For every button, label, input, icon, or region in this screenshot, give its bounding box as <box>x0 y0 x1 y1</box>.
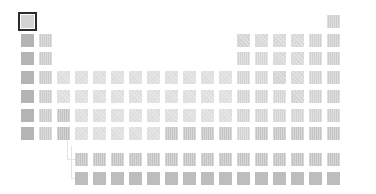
element-cell-ca[interactable]: Ca <box>39 71 52 84</box>
element-cell-cr[interactable]: Cr <box>111 71 124 84</box>
element-cell-ds[interactable]: Ds <box>183 127 196 140</box>
element-cell-md[interactable]: Md <box>291 172 304 185</box>
element-cell-c[interactable]: C <box>255 34 268 47</box>
element-cell-mn[interactable]: Mn <box>129 71 142 84</box>
element-cell-cu[interactable]: Cu <box>201 71 214 84</box>
element-cell-cs[interactable]: Cs <box>21 109 34 122</box>
element-cell-am[interactable]: Am <box>183 172 196 185</box>
element-cell-co[interactable]: Co <box>165 71 178 84</box>
element-cell-h[interactable]: H <box>21 15 34 28</box>
element-cell-se[interactable]: Se <box>291 71 304 84</box>
element-cell-y[interactable]: Y <box>57 90 70 103</box>
element-cell-fm[interactable]: Fm <box>273 172 286 185</box>
element-cell-ra[interactable]: Ra <box>39 127 52 140</box>
element-cell-la-lu[interactable]: La-Lu <box>57 109 70 122</box>
element-cell-rg[interactable]: Rg <box>201 127 214 140</box>
element-cell-mc[interactable]: Mc <box>273 127 286 140</box>
element-cell-he[interactable]: He <box>327 15 340 28</box>
element-cell-xe[interactable]: Xe <box>327 90 340 103</box>
element-cell-yb[interactable]: Yb <box>309 153 322 166</box>
element-cell-ho[interactable]: Ho <box>255 153 268 166</box>
element-cell-mg[interactable]: Mg <box>39 52 52 65</box>
element-cell-fl[interactable]: Fl <box>255 127 268 140</box>
element-cell-ru[interactable]: Ru <box>147 90 160 103</box>
element-cell-pu[interactable]: Pu <box>165 172 178 185</box>
element-cell-lr[interactable]: Lr <box>327 172 340 185</box>
element-cell-ac[interactable]: Ac <box>75 172 88 185</box>
element-cell-ts[interactable]: Ts <box>309 127 322 140</box>
element-cell-np[interactable]: Np <box>147 172 160 185</box>
element-cell-tc[interactable]: Tc <box>129 90 142 103</box>
element-cell-nb[interactable]: Nb <box>93 90 106 103</box>
element-cell-ta[interactable]: Ta <box>93 109 106 122</box>
element-cell-bh[interactable]: Bh <box>129 127 142 140</box>
element-cell-k[interactable]: K <box>21 71 34 84</box>
element-cell-pm[interactable]: Pm <box>147 153 160 166</box>
element-cell-rh[interactable]: Rh <box>165 90 178 103</box>
element-cell-s[interactable]: S <box>291 52 304 65</box>
element-cell-rb[interactable]: Rb <box>21 90 34 103</box>
element-cell-al[interactable]: Al <box>237 52 250 65</box>
element-cell-rf[interactable]: Rf <box>75 127 88 140</box>
element-cell-tm[interactable]: Tm <box>291 153 304 166</box>
element-cell-dy[interactable]: Dy <box>237 153 250 166</box>
element-cell-ir[interactable]: Ir <box>165 109 178 122</box>
element-cell-ge[interactable]: Ge <box>255 71 268 84</box>
element-cell-pa[interactable]: Pa <box>111 172 124 185</box>
element-cell-hf[interactable]: Hf <box>75 109 88 122</box>
element-cell-ag[interactable]: Ag <box>201 90 214 103</box>
element-cell-nd[interactable]: Nd <box>129 153 142 166</box>
element-cell-o[interactable]: O <box>291 34 304 47</box>
element-cell-hg[interactable]: Hg <box>219 109 232 122</box>
element-cell-lv[interactable]: Lv <box>291 127 304 140</box>
element-cell-ni[interactable]: Ni <box>183 71 196 84</box>
element-cell-sr[interactable]: Sr <box>39 90 52 103</box>
element-cell-bi[interactable]: Bi <box>273 109 286 122</box>
element-cell-zr[interactable]: Zr <box>75 90 88 103</box>
element-cell-hs[interactable]: Hs <box>147 127 160 140</box>
element-cell-b[interactable]: B <box>237 34 250 47</box>
element-cell-lu[interactable]: Lu <box>327 153 340 166</box>
element-cell-li[interactable]: Li <box>21 34 34 47</box>
element-cell-te[interactable]: Te <box>291 90 304 103</box>
element-cell-ne[interactable]: Ne <box>327 34 340 47</box>
element-cell-pd[interactable]: Pd <box>183 90 196 103</box>
element-cell-tl[interactable]: Tl <box>237 109 250 122</box>
element-cell-ar[interactable]: Ar <box>327 52 340 65</box>
element-cell-as[interactable]: As <box>273 71 286 84</box>
element-cell-at[interactable]: At <box>309 109 322 122</box>
element-cell-mt[interactable]: Mt <box>165 127 178 140</box>
element-cell-mo[interactable]: Mo <box>111 90 124 103</box>
element-cell-og[interactable]: Og <box>327 127 340 140</box>
element-cell-cn[interactable]: Cn <box>219 127 232 140</box>
element-cell-eu[interactable]: Eu <box>183 153 196 166</box>
element-cell-gd[interactable]: Gd <box>201 153 214 166</box>
element-cell-cd[interactable]: Cd <box>219 90 232 103</box>
element-cell-os[interactable]: Os <box>147 109 160 122</box>
element-cell-sb[interactable]: Sb <box>273 90 286 103</box>
element-cell-ga[interactable]: Ga <box>237 71 250 84</box>
element-cell-tb[interactable]: Tb <box>219 153 232 166</box>
element-cell-zn[interactable]: Zn <box>219 71 232 84</box>
element-cell-pr[interactable]: Pr <box>111 153 124 166</box>
element-cell-rn[interactable]: Rn <box>327 109 340 122</box>
element-cell-u[interactable]: U <box>129 172 142 185</box>
element-cell-fe[interactable]: Fe <box>147 71 160 84</box>
element-cell-no[interactable]: No <box>309 172 322 185</box>
element-cell-kr[interactable]: Kr <box>327 71 340 84</box>
element-cell-es[interactable]: Es <box>255 172 268 185</box>
element-cell-sg[interactable]: Sg <box>111 127 124 140</box>
element-cell-er[interactable]: Er <box>273 153 286 166</box>
element-cell-f[interactable]: F <box>309 34 322 47</box>
element-cell-pb[interactable]: Pb <box>255 109 268 122</box>
element-cell-pt[interactable]: Pt <box>183 109 196 122</box>
element-cell-v[interactable]: V <box>93 71 106 84</box>
element-cell-sn[interactable]: Sn <box>255 90 268 103</box>
element-cell-i[interactable]: I <box>309 90 322 103</box>
element-cell-na[interactable]: Na <box>21 52 34 65</box>
element-cell-cf[interactable]: Cf <box>237 172 250 185</box>
element-cell-db[interactable]: Db <box>93 127 106 140</box>
element-cell-sc[interactable]: Sc <box>57 71 70 84</box>
element-cell-in[interactable]: In <box>237 90 250 103</box>
element-cell-n[interactable]: N <box>273 34 286 47</box>
